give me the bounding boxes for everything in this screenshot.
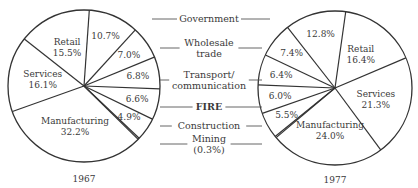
- legend-label: Mining(0.3%): [192, 133, 226, 155]
- slice-label: 12.8%: [306, 29, 335, 39]
- pie-1967: 10.7%7.0%6.8%6.6%4.9%Manufacturing32.2%S…: [8, 10, 160, 184]
- slice-label: Services16.1%: [23, 69, 62, 90]
- slice-label: 6.8%: [126, 71, 149, 81]
- legend-label: Construction: [178, 120, 240, 131]
- year-caption: 1967: [73, 174, 96, 184]
- slice-label: 6.0%: [269, 91, 292, 101]
- chart-canvas: 10.7%7.0%6.8%6.6%4.9%Manufacturing32.2%S…: [0, 0, 418, 188]
- legend-label: Wholesaletrade: [184, 37, 234, 59]
- slice-label: 6.6%: [126, 94, 149, 104]
- slice-label: 5.5%: [275, 110, 298, 120]
- slice-label: 10.7%: [91, 31, 120, 41]
- slice-label: Retail16.4%: [346, 44, 375, 65]
- pie-1977: Retail16.4%Services21.3%Manufacturing24.…: [258, 11, 412, 185]
- legend-label: Government: [179, 13, 239, 24]
- legend-label: FIRE: [196, 101, 222, 112]
- legend-label: Transport/communication: [172, 69, 246, 91]
- slice-label: 7.4%: [280, 48, 303, 58]
- slice-label: 6.4%: [270, 70, 293, 80]
- slice-label: Services21.3%: [356, 89, 395, 110]
- slice-label: 7.0%: [117, 50, 140, 60]
- slice-label: Retail15.5%: [53, 37, 82, 58]
- category-legend: GovernmentWholesaletradeTransport/commun…: [152, 13, 270, 155]
- year-caption: 1977: [324, 175, 347, 185]
- pie-chart-comparison: 10.7%7.0%6.8%6.6%4.9%Manufacturing32.2%S…: [0, 0, 418, 188]
